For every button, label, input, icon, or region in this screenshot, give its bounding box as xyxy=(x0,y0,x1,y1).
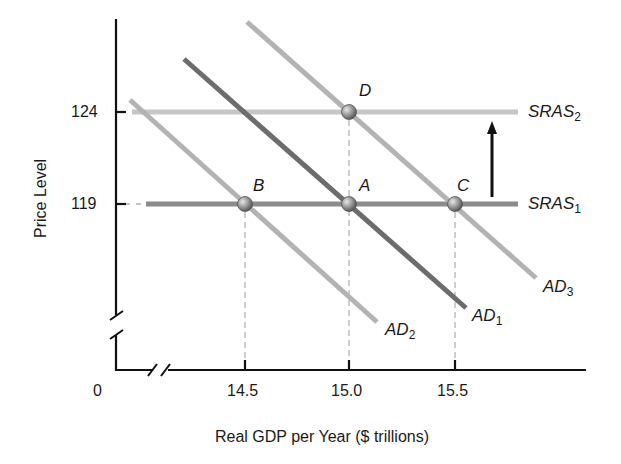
point-label-c: C xyxy=(457,176,469,196)
sras2-label: SRAS2 xyxy=(528,102,581,124)
axis-break-marks xyxy=(110,311,170,376)
x-tick-label-15-0: 15.0 xyxy=(331,382,362,400)
point-c xyxy=(448,197,463,212)
axes xyxy=(115,19,586,371)
x-tick-label-14-5: 14.5 xyxy=(227,382,258,400)
ad2-curve xyxy=(130,100,377,322)
ad1-label: AD1 xyxy=(472,306,502,328)
y-tick-label-124: 124 xyxy=(71,103,98,121)
point-a xyxy=(342,197,357,212)
point-d xyxy=(342,105,357,120)
x-tick-label-15-5: 15.5 xyxy=(437,382,468,400)
shift-up-arrow xyxy=(487,121,497,197)
ad3-label: AD3 xyxy=(543,277,573,299)
equilibrium-points xyxy=(238,105,463,212)
guide-lines xyxy=(245,120,455,366)
point-label-d: D xyxy=(359,81,371,101)
ad2-label: AD2 xyxy=(385,320,415,342)
x-axis-title: Real GDP per Year ($ trillions) xyxy=(215,428,429,446)
y-tick-label-119: 119 xyxy=(71,195,97,213)
sras1-label: SRAS1 xyxy=(528,194,581,216)
point-label-b: B xyxy=(253,176,264,196)
y-axis-title: Price Level xyxy=(32,159,50,238)
point-b xyxy=(238,197,253,212)
x-tick-label-0: 0 xyxy=(93,382,102,400)
point-label-a: A xyxy=(359,176,370,196)
